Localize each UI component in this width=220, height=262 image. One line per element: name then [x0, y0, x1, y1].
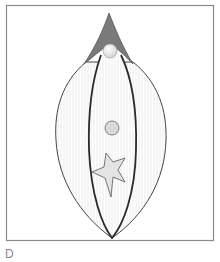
diagram-figure — [0, 0, 220, 262]
panel-label: D — [5, 248, 14, 260]
small-circle — [105, 121, 119, 135]
small-sphere — [103, 44, 117, 58]
